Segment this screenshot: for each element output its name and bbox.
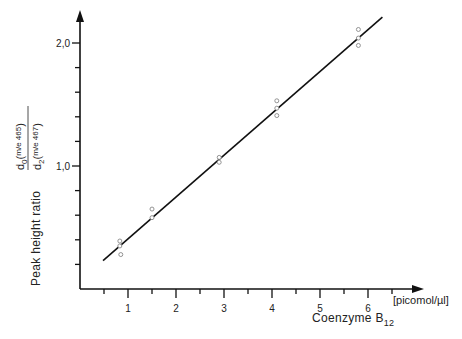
- minor-ticks: [75, 68, 392, 294]
- data-point-marker: [150, 216, 154, 220]
- data-point-marker: [356, 43, 360, 47]
- y-tick-label: 2,0: [56, 38, 70, 49]
- major-ticks: 1,02,0123456: [56, 38, 371, 314]
- y-axis-title-group: Peak height ratio: [29, 191, 43, 286]
- fraction-numerator: d0(m/e 465): [14, 123, 29, 170]
- regression-line: [103, 17, 382, 261]
- data-point-marker: [150, 207, 154, 211]
- data-point-marker: [275, 99, 279, 103]
- data-point-marker: [217, 155, 221, 159]
- x-axis-arrow-icon: [412, 285, 424, 293]
- fit-line-segment: [103, 17, 382, 261]
- x-tick-label: 4: [269, 303, 275, 314]
- y-axis-arrow-icon: [76, 10, 84, 22]
- data-point-marker: [217, 160, 221, 164]
- data-point-marker: [119, 253, 123, 257]
- fraction-denominator: d2(m/e 467): [31, 123, 46, 170]
- x-tick-label: 3: [221, 303, 227, 314]
- axes: [76, 10, 424, 293]
- data-point-marker: [356, 36, 360, 40]
- x-axis-unit: [picomol/µl]: [393, 294, 449, 306]
- data-point-marker: [275, 114, 279, 118]
- y-axis-fraction: d0(m/e 465) d2(m/e 467): [14, 106, 46, 170]
- x-axis-title: Coenzyme B12: [312, 311, 394, 328]
- data-point-marker: [118, 244, 122, 248]
- data-point-marker: [356, 27, 360, 31]
- y-axis-title: Peak height ratio: [29, 191, 43, 286]
- data-point-marker: [275, 106, 279, 110]
- calibration-chart: 1,02,0123456 Coenzyme B12 [picomol/µl] P…: [0, 0, 462, 339]
- x-tick-label: 2: [173, 303, 179, 314]
- y-tick-label: 1,0: [56, 161, 70, 172]
- x-tick-label: 1: [125, 303, 131, 314]
- data-point-marker: [118, 239, 122, 243]
